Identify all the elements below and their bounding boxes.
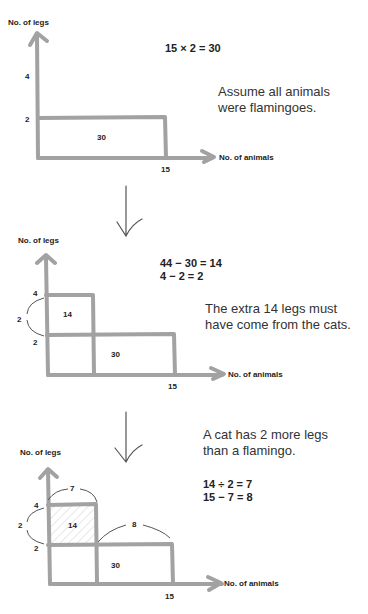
y-tick-4: 4 [33,289,37,298]
note-line-1: The extra 14 legs must [205,301,337,317]
brace-label-flamingoes: 8 [132,520,136,529]
area-value: 30 [97,133,106,142]
area-value-flamingoes: 30 [111,350,120,359]
note-line-2: than a flamingo. [203,443,296,459]
y-axis-label: No. of legs [8,18,49,27]
note-line-1: Assume all animals [218,84,330,100]
x-tick-15: 15 [168,382,177,391]
note-line-2: were flamingoes. [218,100,316,116]
equation-2: 4 − 2 = 2 [160,270,203,283]
x-tick-15: 15 [161,165,170,174]
note-line-2: have come from the cats. [205,317,351,333]
area-value-cats: 14 [68,521,77,530]
brace-label: 2 [17,315,21,324]
y-tick-2: 2 [33,338,37,347]
y-tick-2: 2 [34,544,38,553]
x-axis-label: No. of animals [228,370,283,379]
y-axis-label: No. of legs [20,448,61,457]
equation: 15 × 2 = 30 [165,42,221,55]
equation-1: 44 − 30 = 14 [160,257,222,270]
equation-1: 14 ÷ 2 = 7 [203,478,252,491]
area-value-cats: 14 [63,310,72,319]
brace-label-cats: 7 [70,484,74,493]
note-line-1: A cat has 2 more legs [203,427,328,443]
y-tick-4: 4 [34,501,38,510]
area-value-flamingoes: 30 [111,561,120,570]
y-tick-4: 4 [25,72,29,81]
y-tick-2: 2 [25,115,29,124]
x-axis-label: No. of animals [224,579,279,588]
x-tick-15: 15 [165,592,174,601]
equation-2: 15 − 7 = 8 [203,491,253,504]
brace-label: 2 [18,521,22,530]
x-axis-label: No. of animals [219,153,274,162]
y-axis-label: No. of legs [18,236,59,245]
